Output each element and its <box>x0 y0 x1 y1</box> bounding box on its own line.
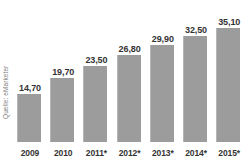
bar[interactable] <box>117 55 141 142</box>
bar-value-label: 35,10 <box>209 17 248 27</box>
category-label: 2015* <box>209 148 248 158</box>
bar-value-label: 14,70 <box>10 83 50 93</box>
bar[interactable] <box>50 78 74 142</box>
bar-group: 19,702010 <box>47 0 80 160</box>
plot-area: 14,70200919,70201023,502011*26,802012*29… <box>14 0 248 160</box>
bar[interactable] <box>83 66 107 142</box>
bar[interactable] <box>183 36 207 142</box>
bar-chart: Quelle: eMarketer 14,70200919,70201023,5… <box>0 0 248 160</box>
bar-group: 35,102015* <box>213 0 246 160</box>
bar-group: 29,902013* <box>147 0 180 160</box>
bar[interactable] <box>17 94 41 142</box>
bar[interactable] <box>150 45 174 142</box>
bar-group: 23,502011* <box>80 0 113 160</box>
bar-value-label: 29,90 <box>143 34 183 44</box>
bar-group: 26,802012* <box>114 0 147 160</box>
bar-group: 14,702009 <box>14 0 47 160</box>
bar-value-label: 26,80 <box>110 44 150 54</box>
bar[interactable] <box>216 28 240 142</box>
bar-value-label: 19,70 <box>43 67 83 77</box>
bar-value-label: 23,50 <box>76 55 116 65</box>
